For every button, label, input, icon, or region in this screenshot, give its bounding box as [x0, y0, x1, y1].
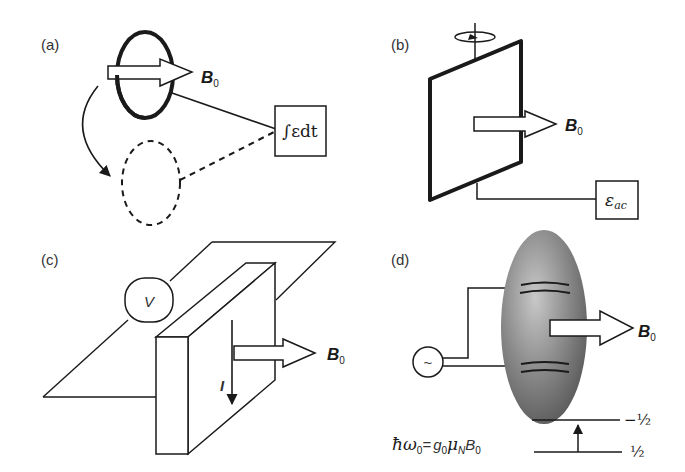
- panel-b-label: (b): [391, 36, 409, 53]
- field-label-b0: B0: [201, 68, 219, 89]
- field-label-b0: B0: [327, 345, 345, 366]
- panel-d-label: (d): [391, 251, 409, 268]
- coil-dashed: [122, 141, 180, 225]
- panel-c: (c) V I B0: [41, 242, 345, 454]
- field-label-b0: B0: [565, 116, 583, 137]
- level-lower-label: ½: [630, 443, 645, 461]
- ac-source-symbol: ~: [424, 354, 433, 371]
- integrator-label: ∫εdt: [282, 121, 318, 141]
- panel-d: (d) ~ B0 ħω0=g0μNB0 −½ ½: [391, 230, 656, 461]
- figure-canvas: (a) B0 ∫εdt (b) B0: [0, 0, 685, 472]
- level-upper-label: −½: [624, 411, 651, 429]
- rotation-arrow-icon: [83, 86, 110, 176]
- panel-a: (a) B0 ∫εdt: [41, 32, 326, 225]
- panel-a-label: (a): [41, 36, 59, 53]
- panel-b: (b) B0 εac: [391, 23, 638, 219]
- panel-c-label: (c): [41, 251, 59, 268]
- field-arrow-icon: [108, 59, 192, 86]
- hall-slab: [156, 337, 188, 454]
- larmor-equation: ħω0=g0μNB0: [392, 434, 481, 456]
- field-label-b0: B0: [638, 322, 656, 343]
